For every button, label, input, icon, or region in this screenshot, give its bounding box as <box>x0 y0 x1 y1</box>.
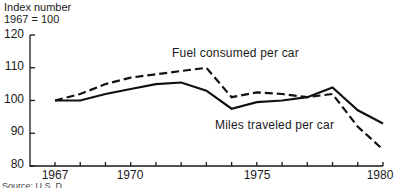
fuel-consumed-line <box>55 68 383 150</box>
source-note: Source: U.S. D... <box>2 181 70 188</box>
line-chart <box>0 0 395 188</box>
miles-traveled-label: Miles traveled per car <box>215 118 334 132</box>
fuel-consumed-label: Fuel consumed per car <box>172 46 299 60</box>
